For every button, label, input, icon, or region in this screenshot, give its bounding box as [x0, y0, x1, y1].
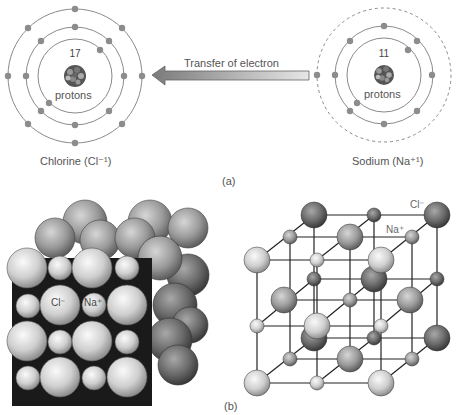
chlorine-proton-count: 17: [60, 48, 90, 59]
sodium-name-label: Sodium (Na⁺¹): [352, 155, 423, 168]
space-filling-na-label: Na⁺: [84, 297, 102, 308]
nucleus-icon: [374, 65, 394, 85]
sodium-protons-label: protons: [364, 88, 401, 100]
part-a-label: (a): [222, 175, 235, 187]
chlorine-protons-label: protons: [55, 89, 92, 101]
lattice-na-label: Na⁺: [386, 224, 404, 235]
lattice-cl-label: Cl⁻: [410, 199, 424, 210]
sodium-proton-count: 11: [369, 48, 399, 59]
nacl-space-filling-model: [7, 200, 209, 406]
space-filling-cl-label: Cl⁻: [51, 297, 65, 308]
chlorine-atom: [5, 6, 145, 146]
transfer-arrow-label: Transfer of electron: [184, 57, 279, 69]
nucleus-icon: [64, 65, 86, 87]
lattice-ions: [244, 202, 450, 396]
chlorine-name-label: Chlorine (Cl⁻¹): [40, 155, 111, 168]
sodium-atom: [314, 8, 451, 142]
part-b-label: (b): [224, 400, 237, 412]
